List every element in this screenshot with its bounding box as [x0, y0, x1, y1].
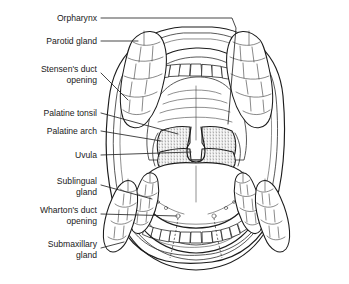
parotid-gland-right-body: [227, 31, 273, 127]
label-stensens-duct: Stensen's duct: [41, 64, 98, 74]
submaxillary-gland-right-body: [255, 180, 289, 252]
anatomy-svg: Orpharynx Parotid gland Stensen's duct o…: [0, 0, 349, 284]
parotid-gland-left-body: [120, 31, 166, 127]
label-orpharynx: Orpharynx: [57, 13, 98, 23]
label-palatine-tonsil: Palatine tonsil: [43, 108, 97, 118]
label-sublingual-gland: Sublingual: [57, 176, 97, 186]
label-parotid-gland: Parotid gland: [46, 36, 97, 46]
parotid-gland-left: [120, 31, 166, 128]
label-whartons-duct-line2: opening: [66, 216, 97, 226]
label-whartons-duct: Wharton's duct: [40, 205, 98, 215]
palatal-ruga: [168, 90, 221, 95]
parotid-gland-right: [227, 31, 273, 128]
submaxillary-gland-right: [255, 179, 289, 252]
soft-palate-tonsil-group: [153, 127, 241, 168]
upper-tooth: [202, 64, 213, 76]
palatal-ruga: [163, 98, 227, 104]
label-sublingual-gland-line2: gland: [76, 187, 97, 197]
lower-tooth: [202, 232, 213, 244]
label-palatine-arch: Palatine arch: [47, 126, 97, 136]
lower-tooth: [179, 232, 190, 243]
label-submaxillary-gland: Submaxillary: [48, 239, 98, 249]
palatal-ruga: [158, 117, 232, 122]
leader-palatine-arch: [101, 131, 161, 141]
upper-tooth: [190, 64, 202, 76]
palatal-ruga: [160, 107, 230, 113]
label-uvula: Uvula: [75, 150, 97, 160]
label-submaxillary-gland-line2: gland: [76, 250, 97, 260]
lower-tooth: [190, 232, 201, 243]
anatomy-figure: Orpharynx Parotid gland Stensen's duct o…: [0, 0, 349, 284]
label-stensens-duct-line2: opening: [66, 75, 97, 85]
labels-group: Orpharynx Parotid gland Stensen's duct o…: [40, 13, 98, 260]
